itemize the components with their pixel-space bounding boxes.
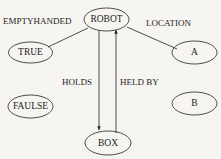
- node-robot-label: ROBOT: [90, 14, 122, 24]
- diagram-canvas: ROBOT TRUE FAULSE A B BOX: [0, 0, 221, 159]
- edge-label-held-by: HELD BY: [120, 77, 159, 87]
- edge-emptyhanded-line: [48, 28, 88, 47]
- node-faulse-label: FAULSE: [13, 101, 48, 111]
- node-b[interactable]: B: [172, 92, 217, 115]
- node-faulse[interactable]: FAULSE: [8, 95, 53, 118]
- node-box[interactable]: BOX: [85, 131, 131, 155]
- node-a-label: A: [191, 47, 198, 57]
- nodes-layer: ROBOT TRUE FAULSE A B BOX: [8, 8, 217, 155]
- node-box-label: BOX: [98, 138, 118, 148]
- semantic-network-diagram: ROBOT TRUE FAULSE A B BOX: [0, 0, 221, 159]
- node-a[interactable]: A: [172, 41, 217, 64]
- node-true[interactable]: TRUE: [9, 42, 53, 63]
- edge-location-line: [127, 27, 177, 49]
- node-true-label: TRUE: [18, 47, 43, 57]
- edge-label-emptyhanded: EMPTYHANDED: [3, 16, 72, 26]
- node-b-label: B: [191, 98, 197, 108]
- edge-label-location: LOCATION: [146, 18, 191, 28]
- edge-label-holds: HOLDS: [62, 77, 92, 87]
- node-robot[interactable]: ROBOT: [84, 8, 129, 31]
